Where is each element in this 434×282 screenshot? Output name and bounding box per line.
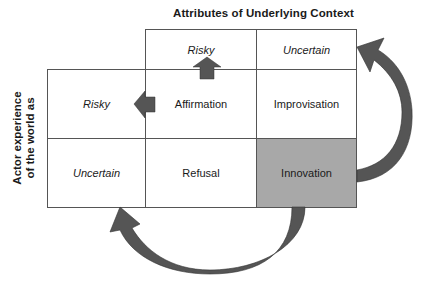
arrow-left-icon	[134, 91, 155, 118]
curved-arrow-right-icon	[357, 38, 412, 182]
arrow-up-icon	[193, 57, 221, 79]
arrows-layer	[0, 0, 434, 282]
curved-arrow-bottom-icon	[110, 207, 305, 274]
